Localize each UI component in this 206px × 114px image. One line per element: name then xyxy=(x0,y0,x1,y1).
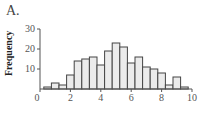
histogram-bar xyxy=(51,83,59,89)
histogram-bar xyxy=(173,77,181,89)
histogram-bar xyxy=(74,61,82,89)
x-tick-label: 4 xyxy=(98,92,103,103)
histogram-bar xyxy=(135,57,143,89)
histogram-bar xyxy=(82,59,90,89)
x-tick-label: 6 xyxy=(129,92,134,103)
x-tick-label: 10 xyxy=(187,92,197,103)
histogram-bar xyxy=(165,85,173,89)
histogram-bar xyxy=(97,65,105,89)
y-tick-label: 20 xyxy=(25,43,35,54)
histogram-bar xyxy=(89,57,97,89)
y-tick-label: 10 xyxy=(25,63,35,74)
x-tick-label: 2 xyxy=(68,92,73,103)
histogram-bar xyxy=(112,43,120,89)
y-tick-label: 30 xyxy=(25,23,35,34)
histogram-bar xyxy=(59,85,67,89)
histogram-bar xyxy=(67,75,75,89)
histogram-bar xyxy=(127,63,135,89)
histogram-bar xyxy=(105,51,113,89)
histogram-bar xyxy=(150,69,158,89)
x-tick-label: 8 xyxy=(159,92,164,103)
histogram-bar xyxy=(120,47,128,89)
histogram: 1020300246810 xyxy=(0,0,206,114)
x-tick-label: 0 xyxy=(35,92,40,103)
histogram-bar xyxy=(158,73,166,89)
histogram-bar xyxy=(143,67,151,89)
